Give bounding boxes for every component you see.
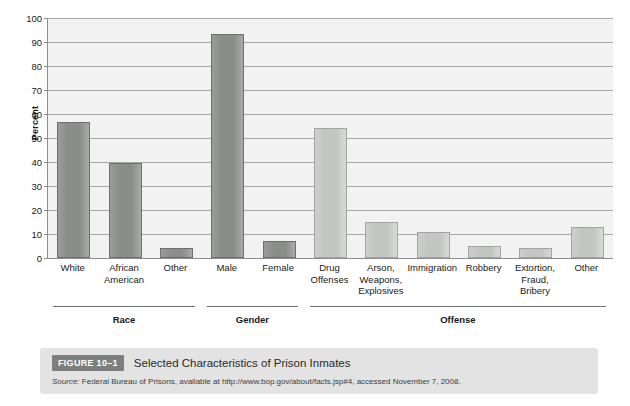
y-axis-tick-label: 20 [2, 210, 42, 211]
group-rule [207, 306, 298, 307]
group-name: Gender [207, 314, 298, 325]
group-label: Offense [310, 306, 606, 325]
bar [417, 232, 450, 258]
y-axis-tick-label: 0 [2, 258, 42, 259]
y-axis-tick-label: 70 [2, 90, 42, 91]
y-axis-title: Percent [30, 93, 40, 153]
plot-area: 0102030405060708090100 [47, 18, 613, 259]
bars-layer [48, 18, 613, 258]
source-label: Source: [52, 377, 80, 386]
x-axis-tick-label: Other [557, 262, 616, 274]
y-axis-tick-label: 60 [2, 114, 42, 115]
caption-row: FIGURE 10–1 Selected Characteristics of … [52, 355, 351, 371]
figure-source-note: Source: Federal Bureau of Prisons, avail… [52, 377, 461, 386]
source-text: Federal Bureau of Prisons, available at … [80, 377, 461, 386]
bar [365, 222, 398, 258]
bar [468, 246, 501, 258]
bar-chart: Percent 0102030405060708090100 WhiteAfri… [0, 0, 630, 340]
y-axis-tick-label: 40 [2, 162, 42, 163]
y-axis-tick-label: 90 [2, 42, 42, 43]
figure-container: Percent 0102030405060708090100 WhiteAfri… [0, 0, 630, 406]
figure-number-badge: FIGURE 10–1 [52, 355, 124, 371]
group-name: Race [53, 314, 195, 325]
bar [109, 163, 142, 258]
bar [571, 227, 604, 258]
bar [314, 128, 347, 258]
figure-caption-band: FIGURE 10–1 Selected Characteristics of … [40, 348, 598, 394]
group-rule [53, 306, 195, 307]
y-axis-tick-label: 80 [2, 66, 42, 67]
y-axis-tick-label: 50 [2, 138, 42, 139]
bar [211, 34, 244, 258]
figure-title: Selected Characteristics of Prison Inmat… [134, 357, 351, 369]
x-axis-group-labels: RaceGenderOffense [47, 306, 612, 336]
bar [160, 248, 193, 258]
group-name: Offense [310, 314, 606, 325]
bar [57, 122, 90, 258]
group-label: Race [53, 306, 195, 325]
y-axis-tick-label: 30 [2, 186, 42, 187]
bar [263, 241, 296, 258]
x-axis-tick-labels: WhiteAfricanAmericanOtherMaleFemaleDrugO… [47, 262, 612, 306]
y-axis-tick-label: 10 [2, 234, 42, 235]
group-label: Gender [207, 306, 298, 325]
gridline: 0 [48, 258, 613, 259]
y-axis-tick-label: 100 [2, 18, 42, 19]
bar [519, 248, 552, 258]
group-rule [310, 306, 606, 307]
